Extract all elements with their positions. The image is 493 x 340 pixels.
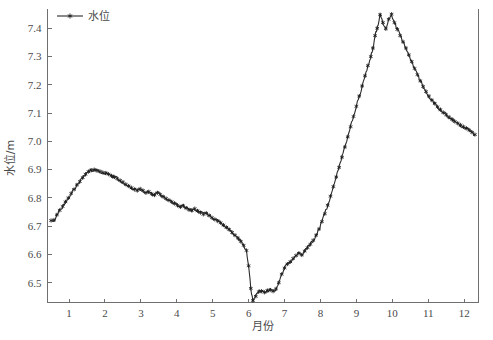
data-point-marker <box>249 286 253 290</box>
x-tick-label: 3 <box>138 307 144 319</box>
data-point-marker <box>332 185 336 189</box>
x-tick-label: 11 <box>423 307 434 319</box>
data-point-marker <box>349 125 353 129</box>
y-tick-label: 6.9 <box>28 163 42 175</box>
x-tick-label: 4 <box>174 307 180 319</box>
data-point-marker <box>247 264 251 268</box>
x-axis-tick-labels: 123456789101112 <box>66 307 469 319</box>
y-tick-label: 6.8 <box>28 192 42 204</box>
data-point-marker <box>378 13 382 17</box>
chart-canvas: 6.56.66.76.86.97.07.17.27.37.4 123456789… <box>0 0 493 340</box>
data-point-marker <box>337 165 341 169</box>
data-point-marker <box>329 194 333 198</box>
x-tick-label: 8 <box>318 307 324 319</box>
x-tick-label: 6 <box>246 307 252 319</box>
data-point-marker <box>363 74 367 78</box>
series-markers <box>49 12 476 303</box>
y-axis-tick-labels: 6.56.66.76.86.97.07.17.27.37.4 <box>28 22 42 288</box>
data-point-marker <box>355 104 359 108</box>
y-axis-ticks <box>48 28 52 282</box>
data-point-marker <box>375 26 379 30</box>
x-tick-label: 9 <box>354 307 360 319</box>
axis-frame <box>48 9 479 303</box>
data-point-marker <box>407 53 411 57</box>
y-tick-label: 7.2 <box>28 79 42 91</box>
data-point-marker <box>381 21 385 25</box>
y-tick-label: 6.5 <box>28 277 42 289</box>
data-point-marker <box>340 155 344 159</box>
data-point-marker <box>371 46 375 50</box>
x-tick-label: 5 <box>210 307 216 319</box>
y-tick-label: 7.1 <box>28 107 42 119</box>
y-tick-label: 6.6 <box>28 248 42 260</box>
y-tick-label: 6.7 <box>28 220 42 232</box>
y-tick-label: 7.3 <box>28 50 42 62</box>
data-point-marker <box>277 281 281 285</box>
data-point-marker <box>369 54 373 58</box>
y-tick-label: 7.4 <box>28 22 42 34</box>
series-water-level <box>51 14 475 302</box>
water-level-chart: 6.56.66.76.86.97.07.17.27.37.4 123456789… <box>0 0 493 340</box>
x-axis-ticks <box>69 299 464 303</box>
x-tick-label: 7 <box>282 307 288 319</box>
data-point-marker <box>283 266 287 270</box>
x-tick-label: 2 <box>102 307 108 319</box>
y-tick-label: 7.0 <box>28 135 42 147</box>
x-axis-title: 月份 <box>252 320 274 333</box>
data-point-marker <box>352 114 356 118</box>
data-point-marker <box>343 145 347 149</box>
data-point-marker <box>384 27 388 31</box>
data-point-marker <box>334 175 338 179</box>
data-point-marker <box>346 135 350 139</box>
data-point-marker <box>373 34 377 38</box>
data-point-marker <box>360 84 364 88</box>
x-tick-label: 10 <box>387 307 399 319</box>
y-axis-title: 水位/m <box>3 140 17 176</box>
water-level-line <box>51 14 475 302</box>
legend-label: 水位 <box>88 9 110 23</box>
x-tick-label: 1 <box>66 307 72 319</box>
x-tick-label: 12 <box>459 307 470 319</box>
chart-legend: 水位 <box>57 9 110 23</box>
